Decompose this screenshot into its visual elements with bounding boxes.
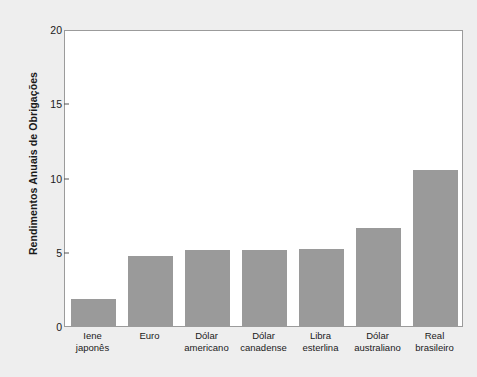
chart-figure: Rendimentos Anuais de Obrigações 0510152… [0, 0, 477, 377]
bar [299, 249, 343, 326]
x-tick-label: Dólar canadense [235, 330, 292, 354]
y-tick-label: 10 [50, 173, 62, 185]
y-tick-label: 0 [56, 321, 62, 333]
x-tick-label: Iene japonês [64, 330, 121, 354]
y-axis-tick-labels: 05101520 [38, 0, 62, 377]
y-tick-mark [64, 178, 69, 179]
bar [185, 250, 229, 326]
bar [242, 250, 286, 326]
bar [128, 256, 172, 326]
x-axis-tick-labels: Iene japonêsEuroDólar americanoDólar can… [64, 330, 463, 370]
plot-area [64, 30, 463, 327]
x-tick-label: Dólar americano [178, 330, 235, 354]
y-tick-label: 20 [50, 24, 62, 36]
y-tick-label: 5 [56, 247, 62, 259]
bar [413, 170, 457, 326]
y-tick-label: 15 [50, 98, 62, 110]
bar [356, 228, 400, 326]
x-tick-label: Euro [121, 330, 178, 342]
bars-container [65, 31, 462, 326]
y-tick-mark [64, 252, 69, 253]
y-tick-mark [64, 104, 69, 105]
bar [71, 299, 115, 326]
x-tick-label: Real brasileiro [406, 330, 463, 354]
x-tick-label: Dólar australiano [349, 330, 406, 354]
x-tick-label: Libra esterlina [292, 330, 349, 354]
